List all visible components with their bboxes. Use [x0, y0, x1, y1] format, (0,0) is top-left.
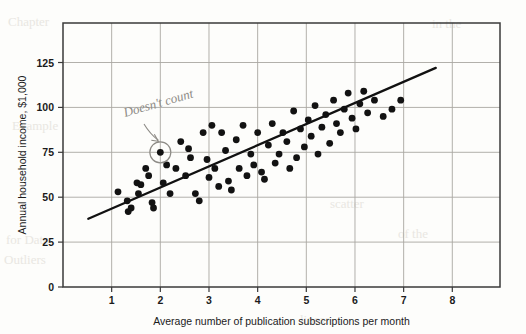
svg-text:100: 100: [36, 101, 54, 113]
tick-labels: 123456780255075100125: [36, 57, 455, 306]
svg-text:75: 75: [42, 146, 54, 158]
svg-text:6: 6: [352, 294, 358, 306]
axis-ticks: [58, 63, 452, 292]
svg-text:3: 3: [206, 294, 212, 306]
svg-text:1: 1: [109, 294, 115, 306]
svg-text:4: 4: [255, 294, 261, 306]
svg-text:7: 7: [401, 294, 407, 306]
svg-text:Annual household income, $1,00: Annual household income, $1,000: [16, 75, 28, 234]
axis-titles: Average number of publication subscripti…: [16, 75, 410, 327]
svg-text:50: 50: [42, 191, 54, 203]
svg-text:2: 2: [157, 294, 163, 306]
svg-text:125: 125: [36, 57, 54, 69]
svg-text:Average number of publication: Average number of publication subscripti…: [153, 315, 410, 327]
svg-text:25: 25: [42, 236, 54, 248]
handwritten-annotation: Doesn't count: [121, 86, 195, 142]
scatter-plot: 123456780255075100125 Doesn't count Aver…: [0, 0, 526, 334]
svg-text:5: 5: [303, 294, 309, 306]
trend-line: [88, 68, 435, 219]
svg-text:Doesn't count: Doesn't count: [121, 86, 195, 121]
svg-text:8: 8: [449, 294, 455, 306]
figure-page: Chapter in the Example for Data Outliers…: [0, 0, 526, 334]
svg-text:0: 0: [48, 281, 54, 293]
